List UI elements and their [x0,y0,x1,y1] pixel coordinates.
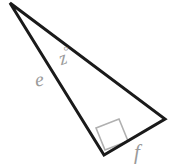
geometry-figure: z° e f [0,0,174,165]
triangle-outline [10,3,165,155]
side-label-f: f [134,142,140,163]
triangle-canvas [0,0,174,165]
